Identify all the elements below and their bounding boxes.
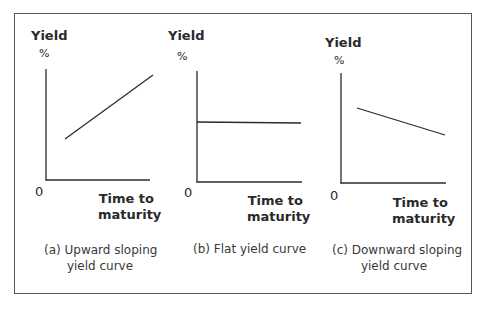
panel-c-y-label: Yield [325, 35, 361, 50]
panel-c-caption-line1: (c) Downward sloping [332, 242, 456, 258]
panel-b-y-unit: % [177, 50, 187, 63]
panel-b-caption: (b) Flat yield curve [193, 241, 305, 257]
panel-a-upward-curve [65, 75, 153, 139]
panel-c-caption-line2: yield curve [332, 258, 456, 274]
panel-a-y-unit: % [39, 47, 49, 60]
panel-b-x-label-line1: Time to [247, 193, 303, 209]
panel-c-graph [341, 73, 447, 184]
panel-c-y-unit: % [334, 54, 344, 67]
panel-c-downward-curve [357, 108, 445, 135]
panel-a-graph [46, 69, 154, 181]
panel-a-y-label: Yield [31, 28, 67, 43]
panel-b-origin-label: 0 [184, 185, 192, 200]
panel-a-origin-label: 0 [35, 184, 43, 199]
panel-b-x-label-line2: maturity [247, 209, 303, 225]
panel-a-x-label-line2: maturity [98, 207, 154, 223]
panel-c-origin-label: 0 [330, 188, 338, 203]
panel-a-caption-line1: (a) Upward sloping [44, 242, 156, 258]
panel-b-graph [197, 71, 303, 183]
panel-a-caption-line2: yield curve [44, 258, 156, 274]
panel-b-x-label: Time to maturity [247, 193, 303, 225]
panel-c-caption: (c) Downward sloping yield curve [332, 242, 456, 274]
panel-a-x-label-line1: Time to [98, 191, 154, 207]
panel-a-x-label: Time to maturity [98, 191, 154, 223]
panel-a-caption: (a) Upward sloping yield curve [44, 242, 156, 274]
panel-c-x-label: Time to maturity [392, 195, 448, 227]
panel-b-y-label: Yield [168, 28, 204, 43]
panel-c-x-label-line1: Time to [392, 195, 448, 211]
panel-c-x-label-line2: maturity [392, 211, 448, 227]
panel-b-flat-curve [197, 122, 301, 123]
panel-b-caption-line1: (b) Flat yield curve [193, 241, 305, 257]
